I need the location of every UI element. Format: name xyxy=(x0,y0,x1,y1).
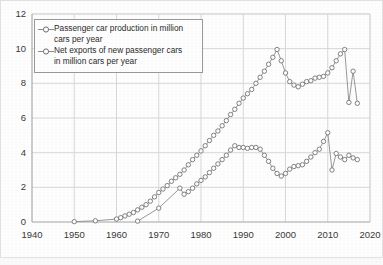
series-0-marker xyxy=(241,96,245,100)
chart-legend: Passenger car production in million cars… xyxy=(34,19,203,73)
series-1-marker xyxy=(195,182,199,186)
legend-label-production-line2: cars per year xyxy=(54,34,102,44)
series-0-marker xyxy=(334,59,338,63)
y-tick-label: 0 xyxy=(2,216,26,227)
series-0-marker xyxy=(254,81,258,85)
series-1-marker xyxy=(300,163,304,167)
series-0-marker xyxy=(152,195,156,199)
legend-label-exports-line1: Net exports of new passenger cars xyxy=(54,45,182,55)
series-1-marker xyxy=(338,155,342,159)
series-0-marker xyxy=(131,210,135,214)
y-tick-label: 6 xyxy=(2,112,26,123)
series-0-marker xyxy=(237,101,241,105)
series-1-marker xyxy=(241,145,245,149)
series-0-marker xyxy=(292,83,296,87)
x-tick-label: 2000 xyxy=(266,229,306,240)
series-0-marker xyxy=(347,100,351,104)
legend-label-production: Passenger car production in million cars… xyxy=(54,23,183,44)
series-1-marker xyxy=(207,170,211,174)
series-1-marker xyxy=(351,156,355,160)
series-1-marker xyxy=(245,146,249,150)
series-1-marker xyxy=(288,167,292,171)
series-1-marker xyxy=(203,175,207,179)
series-0-marker xyxy=(161,187,165,191)
series-0-marker xyxy=(220,124,224,128)
series-0-marker xyxy=(313,76,317,80)
series-1-marker xyxy=(258,147,262,151)
series-1-marker xyxy=(190,186,194,190)
series-0-marker xyxy=(224,118,228,122)
series-1-marker xyxy=(330,168,334,172)
legend-label-production-line1: Passenger car production in million xyxy=(54,23,183,33)
series-1-marker xyxy=(182,192,186,196)
series-0-marker xyxy=(135,208,139,212)
series-0-marker xyxy=(262,69,266,73)
series-1-marker xyxy=(271,166,275,170)
series-1-marker xyxy=(135,219,139,223)
series-0-marker xyxy=(351,69,355,73)
series-0-marker xyxy=(271,55,275,59)
series-1-marker xyxy=(228,148,232,152)
series-0-marker xyxy=(288,79,292,83)
series-0-marker xyxy=(114,217,118,221)
series-1-marker xyxy=(283,171,287,175)
legend-marker-icon xyxy=(38,24,54,35)
series-0-marker xyxy=(178,172,182,176)
y-tick-label: 8 xyxy=(2,77,26,88)
series-1-marker xyxy=(317,147,321,151)
series-0-marker xyxy=(321,74,325,78)
x-tick-label: 1950 xyxy=(54,229,94,240)
x-tick-label: 2010 xyxy=(308,229,348,240)
series-1-marker xyxy=(334,151,338,155)
series-1-marker xyxy=(292,164,296,168)
x-tick-label: 1940 xyxy=(12,229,52,240)
series-0-marker xyxy=(148,199,152,203)
series-0-marker xyxy=(233,107,237,111)
series-0-marker xyxy=(258,75,262,79)
series-1-marker xyxy=(296,163,300,167)
series-0-marker xyxy=(140,205,144,209)
series-0-marker xyxy=(304,79,308,83)
series-0-marker xyxy=(157,190,161,194)
series-0-marker xyxy=(279,59,283,63)
series-0-marker xyxy=(330,66,334,70)
series-1-marker xyxy=(275,171,279,175)
series-0-marker xyxy=(123,214,127,218)
series-1-marker xyxy=(326,131,330,135)
series-1-marker xyxy=(224,153,228,157)
series-0-marker xyxy=(266,62,270,66)
series-1-marker xyxy=(279,174,283,178)
series-1-marker xyxy=(266,159,270,163)
legend-label-exports: Net exports of new passenger cars in mil… xyxy=(54,45,182,66)
series-1-marker xyxy=(220,157,224,161)
y-tick-label: 10 xyxy=(2,43,26,54)
series-1-marker xyxy=(233,144,237,148)
series-layer xyxy=(72,47,359,224)
series-0-marker xyxy=(338,52,342,56)
series-1-marker xyxy=(347,153,351,157)
series-0-marker xyxy=(245,92,249,96)
series-0-marker xyxy=(296,85,300,89)
series-0-marker xyxy=(93,219,97,223)
series-0-marker xyxy=(300,82,304,86)
x-tick-label: 1980 xyxy=(181,229,221,240)
series-0-marker xyxy=(190,157,194,161)
series-0-marker xyxy=(127,212,131,216)
series-0-marker xyxy=(283,71,287,75)
x-tick-label: 1960 xyxy=(97,229,137,240)
series-0-marker xyxy=(144,202,148,206)
series-0-marker xyxy=(119,215,123,219)
series-0-marker xyxy=(342,47,346,51)
series-0-marker xyxy=(211,133,215,137)
series-0-marker xyxy=(186,163,190,167)
legend-item-production: Passenger car production in million cars… xyxy=(38,23,200,44)
series-1-marker xyxy=(342,157,346,161)
series-1-marker xyxy=(254,145,258,149)
series-0-marker xyxy=(182,168,186,172)
series-0-marker xyxy=(216,129,220,133)
series-1-marker xyxy=(250,145,254,149)
y-tick-label: 2 xyxy=(2,181,26,192)
series-0-marker xyxy=(195,153,199,157)
series-0-marker xyxy=(173,176,177,180)
series-1-marker xyxy=(157,206,161,210)
